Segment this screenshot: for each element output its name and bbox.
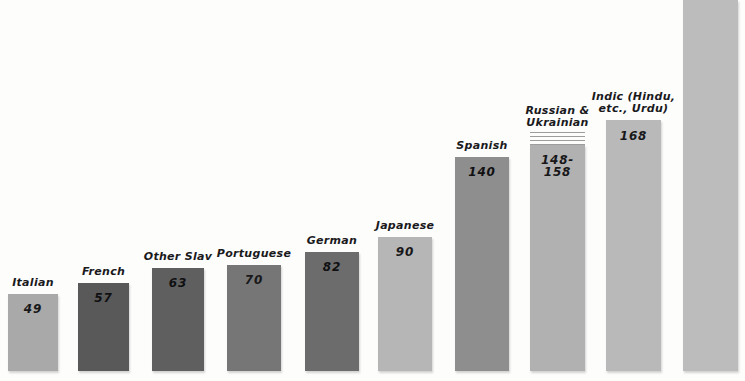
bar-label-indic-line2: etc., Urdu) bbox=[599, 103, 669, 115]
bar-group-spanish[interactable]: 140 Spanish bbox=[455, 0, 509, 371]
bar-group-russian-ukrainian[interactable]: 148- 158 Russian & Ukrainian bbox=[530, 0, 585, 371]
bar-label-portuguese: Portuguese bbox=[217, 248, 291, 260]
bar-value-russian-ukrainian-line2: 158 bbox=[530, 166, 585, 179]
bar-group-truncated[interactable] bbox=[683, 0, 738, 371]
bar-group-japanese[interactable]: 90 Japanese bbox=[378, 0, 432, 371]
bar-value-german: 82 bbox=[305, 261, 359, 274]
bar-label-french: French bbox=[82, 266, 125, 278]
range-stripes-russian-ukrainian bbox=[530, 130, 585, 145]
bar-spanish[interactable] bbox=[455, 157, 509, 371]
bar-group-portuguese[interactable]: 70 Portuguese bbox=[227, 0, 281, 371]
bar-value-french: 57 bbox=[78, 292, 129, 305]
bar-value-other-slav: 63 bbox=[152, 277, 204, 290]
bar-label-other-slav: Other Slav bbox=[144, 251, 212, 263]
bar-group-italian[interactable]: 49 Italian bbox=[8, 0, 58, 371]
bar-label-russian-ukrainian-line2: Ukrainian bbox=[526, 117, 588, 129]
bar-group-other-slav[interactable]: 63 Other Slav bbox=[152, 0, 204, 371]
bar-label-spanish: Spanish bbox=[456, 140, 507, 152]
bar-truncated[interactable] bbox=[683, 0, 738, 371]
bar-chart: 49 Italian 57 French 63 Other Slav 70 Po… bbox=[0, 0, 745, 381]
bar-russian-ukrainian[interactable] bbox=[530, 145, 585, 371]
bar-label-japanese: Japanese bbox=[376, 220, 435, 232]
bar-value-portuguese: 70 bbox=[227, 274, 281, 287]
bar-indic[interactable] bbox=[606, 120, 661, 371]
bar-label-german: German bbox=[307, 235, 357, 247]
bar-value-spanish: 140 bbox=[455, 166, 509, 179]
bar-group-indic[interactable]: 168 Indic (Hindu, etc., Urdu) bbox=[606, 0, 661, 371]
bar-group-french[interactable]: 57 French bbox=[78, 0, 129, 371]
bar-value-italian: 49 bbox=[8, 303, 58, 316]
bar-value-indic: 168 bbox=[606, 130, 661, 143]
bar-label-italian: Italian bbox=[12, 277, 54, 289]
bar-value-japanese: 90 bbox=[378, 246, 432, 259]
bar-group-german[interactable]: 82 German bbox=[305, 0, 359, 371]
